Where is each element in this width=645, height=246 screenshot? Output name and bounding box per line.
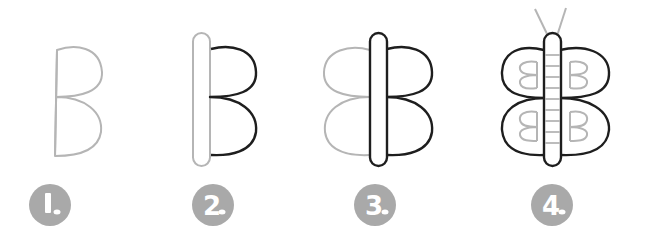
- step-1-badge: [29, 184, 71, 226]
- step-1-drawing: [55, 47, 102, 156]
- step-4-badge: 4: [531, 184, 573, 226]
- step-2-badge: 2: [192, 184, 234, 226]
- step-2-number: 2: [203, 191, 221, 221]
- step-4-number: 4: [542, 191, 560, 221]
- step-3-number: 3: [365, 191, 383, 221]
- step-3-badge: 3: [354, 184, 396, 226]
- butterfly-tutorial-canvas: 2 3: [0, 0, 645, 246]
- step-3-drawing: [324, 33, 432, 166]
- step-4-drawing: [502, 8, 609, 166]
- step-2-drawing: [193, 33, 256, 166]
